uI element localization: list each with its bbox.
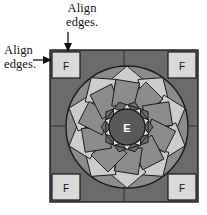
corner-square-label: F: [179, 183, 185, 194]
corner-square-top-right: F: [168, 52, 196, 78]
callout-left-line1: Align: [4, 43, 33, 57]
corner-square-label: F: [63, 183, 69, 194]
quilt-block-diagram: E F F F F: [0, 0, 207, 215]
corner-square-bottom-left: F: [52, 174, 80, 200]
corner-square-top-left: F: [52, 52, 80, 78]
callout-top-line1: Align: [68, 1, 97, 15]
center-label: E: [123, 122, 130, 134]
callout-arrow-top: [64, 32, 72, 52]
corner-square-label: F: [179, 61, 185, 72]
corner-square-label: F: [63, 61, 69, 72]
callout-label-top: Align edges.: [66, 2, 98, 29]
callout-left-line2: edges.: [4, 58, 36, 72]
callout-label-left: Align edges.: [4, 44, 36, 71]
callout-top-line2: edges.: [66, 16, 98, 30]
corner-square-bottom-right: F: [168, 174, 196, 200]
diagram-container: E F F F F Align edge: [0, 0, 207, 215]
